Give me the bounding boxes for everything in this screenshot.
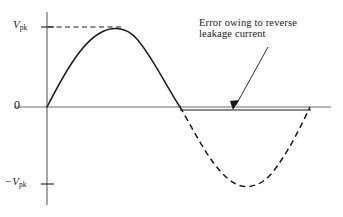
peak-symbol-negative: V <box>12 175 19 187</box>
origin-label: 0 <box>14 99 20 112</box>
annotation-text: Error owing to reverse leakage current <box>199 17 297 40</box>
y-axis-label-peak-positive: Vpk <box>13 19 27 32</box>
positive-half-cycle-curve <box>47 29 180 107</box>
negative-half-cycle-dashed-curve <box>180 107 310 187</box>
figure-rectified-sine-leakage: Vpk −Vpk 0 Error owing to reverse leakag… <box>0 0 343 217</box>
peak-subscript-negative: pk <box>19 180 27 189</box>
peak-symbol: V <box>13 18 20 30</box>
annotation-arrowhead-icon <box>230 100 239 110</box>
annotation-text-line2: leakage current <box>199 28 297 39</box>
annotation-leader-line <box>236 47 268 105</box>
peak-subscript: pk <box>20 23 28 32</box>
y-axis-label-peak-negative: −Vpk <box>5 176 27 189</box>
minus-sign: − <box>5 175 11 187</box>
annotation-text-line1: Error owing to reverse <box>199 17 297 28</box>
